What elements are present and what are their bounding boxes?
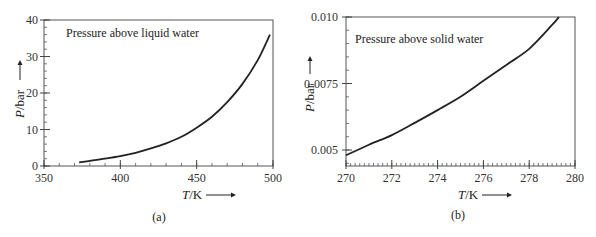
y-axis-unit: /bar <box>12 89 27 110</box>
chart-panel-b: 2702722742762782800.0050-00750.010Pressu… <box>302 10 584 222</box>
x-tick-label: 274 <box>429 171 447 185</box>
y-axis-arrowhead-icon <box>308 56 313 61</box>
chart-panel-a: 350400450500010203040Pressure above liqu… <box>12 13 282 224</box>
y-tick-label: 30 <box>26 50 38 64</box>
panel-label: (a) <box>152 210 165 224</box>
vapor-pressure-figure: 350400450500010203040Pressure above liqu… <box>0 0 596 237</box>
curve-annotation: Pressure above solid water <box>355 32 483 46</box>
y-tick-label: 40 <box>26 13 38 27</box>
x-axis-title: T/K <box>182 187 203 202</box>
x-axis-arrowhead-icon <box>231 193 236 198</box>
x-axis-unit: /K <box>189 187 203 202</box>
y-tick-label: 20 <box>26 86 38 100</box>
y-axis-arrowhead-icon <box>18 60 23 65</box>
y-tick-label: 10 <box>26 123 38 137</box>
plot-frame <box>44 20 273 166</box>
x-axis-arrowhead-icon <box>507 193 512 198</box>
x-tick-label: 272 <box>383 171 401 185</box>
panel-label: (b) <box>451 208 465 222</box>
y-tick-label: 0.005 <box>311 143 338 157</box>
x-axis-title: T/K <box>458 187 479 202</box>
x-tick-label: 500 <box>264 171 282 185</box>
y-axis-title: P/bar <box>302 83 317 113</box>
y-axis-unit: /bar <box>302 83 317 104</box>
y-tick-label: 0 <box>32 159 38 173</box>
x-tick-label: 350 <box>35 171 53 185</box>
x-tick-label: 276 <box>474 171 492 185</box>
curve-annotation: Pressure above liquid water <box>66 26 199 40</box>
y-tick-label: 0.010 <box>311 10 338 24</box>
x-tick-label: 450 <box>188 171 206 185</box>
y-axis-title: P/bar <box>12 89 27 119</box>
x-tick-label: 278 <box>520 171 538 185</box>
x-axis-unit: /K <box>465 187 479 202</box>
x-tick-label: 400 <box>111 171 129 185</box>
x-tick-label: 280 <box>566 171 584 185</box>
y-axis-symbol: P <box>12 110 27 119</box>
x-tick-label: 270 <box>337 171 355 185</box>
data-curve <box>79 35 270 163</box>
y-axis-symbol: P <box>302 104 317 113</box>
